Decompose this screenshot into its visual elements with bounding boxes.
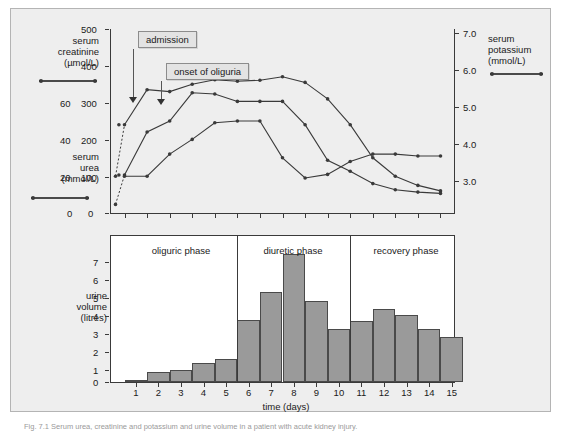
bar-day-2 [147,372,170,382]
series-point [394,152,398,156]
series-point [213,92,217,96]
tick-urine-7 [105,262,109,263]
series-point [281,100,285,104]
tick-urine-1 [105,370,109,371]
figure-panel: serum creatinine (µmol/L) serum urea (mm… [10,8,551,412]
tick-time-1 [125,214,126,218]
series-point [123,123,127,127]
bar-day-11 [350,321,373,382]
phase-label-oliguric: oliguric phase [121,245,241,256]
tick-urine-4 [105,316,109,317]
bar-day-4 [192,363,215,382]
time-tick-1: 1 [130,387,142,398]
tick-urine-6 [105,280,109,281]
series-line-serum-potassium [125,121,441,178]
bar-day-5 [215,359,238,382]
time-tick-12: 12 [378,387,390,398]
tick-urine-3 [105,334,109,335]
bar-day-7 [260,292,283,382]
tick-time-10 [328,214,329,218]
series-line-serum-urea [125,93,441,194]
series-point [326,173,330,177]
series-line-serum-creatinine [125,77,441,191]
annotation-admission-arrow [129,97,137,103]
series-point [145,174,149,178]
series-point [303,176,307,180]
bar-day-8 [283,254,306,382]
urine-tick-1: 1 [93,365,98,376]
bar-day-15 [440,337,463,382]
bar-day-1 [125,380,148,382]
series-point [371,182,375,186]
time-tick-10: 10 [333,387,345,398]
phase-divider-1 [237,236,238,382]
urine-tick-7: 7 [93,257,98,268]
series-point [168,90,172,94]
annotation-onset-stem [161,81,162,101]
bar-day-10 [328,329,351,382]
series-point [145,88,149,92]
tick-time-15 [440,214,441,218]
urine-tick-3: 3 [93,329,98,340]
tick-time-8 [283,214,284,218]
bars-layer [111,236,454,382]
series-point [416,190,420,194]
series-point [213,121,217,125]
series-point [371,152,375,156]
bar-day-12 [373,309,396,382]
series-point [439,154,443,158]
series-point [326,97,330,101]
urine-tick-2: 2 [93,347,98,358]
annotation-admission: admission [138,31,197,48]
series-point [236,80,240,84]
series-point [145,130,149,134]
time-tick-3: 3 [175,387,187,398]
tick-time-11 [350,214,351,218]
time-tick-9: 9 [310,387,322,398]
time-tick-8: 8 [288,387,300,398]
tick-time-12 [373,214,374,218]
series-point [394,174,398,178]
tick-time-7 [260,214,261,218]
series-point [303,123,307,127]
series-point [348,160,352,164]
time-tick-11: 11 [355,387,367,398]
series-point [371,156,375,160]
series-point [394,188,398,192]
series-point [439,192,443,196]
series-point [416,184,420,188]
urine-tick-4: 4 [93,311,98,322]
annotation-onset-oliguria: onset of oliguria [166,63,249,80]
series-point [258,100,262,104]
bar-day-13 [395,315,418,382]
tick-urine-0 [105,382,109,383]
series-point [190,82,194,86]
series-point [348,123,352,127]
series-point [123,174,127,178]
series-point [190,138,194,142]
tick-time-9 [305,214,306,218]
series-point [236,119,240,123]
phase-label-diuretic: diuretic phase [233,245,353,256]
tick-time-6 [237,214,238,218]
annotation-admission-stem [133,49,134,99]
time-tick-4: 4 [198,387,210,398]
bar-day-6 [237,320,260,382]
series-point [281,75,285,79]
urine-tick-5: 5 [93,293,98,304]
time-tick-13: 13 [401,387,413,398]
tick-time-5 [215,214,216,218]
tick-time-4 [192,214,193,218]
series-point [348,170,352,174]
urine-tick-0: 0 [93,377,98,388]
series-point [281,156,285,160]
tick-time-3 [170,214,171,218]
time-tick-2: 2 [152,387,164,398]
series-point [258,78,262,82]
series-point [258,119,262,123]
time-tick-5: 5 [220,387,232,398]
series-point [168,152,172,156]
time-tick-6: 6 [243,387,255,398]
series-point [168,119,172,123]
time-tick-14: 14 [423,387,435,398]
